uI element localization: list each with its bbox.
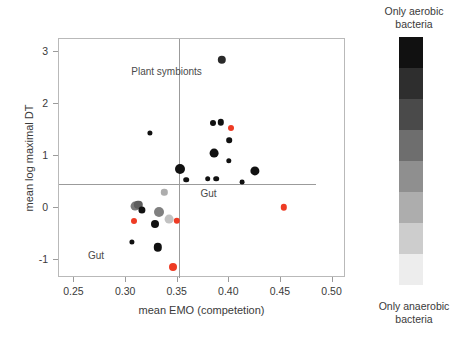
x-axis-tick-label: 0.45 — [270, 285, 290, 297]
x-axis-tick — [228, 277, 229, 282]
y-axis-tick-label: 3 — [24, 45, 48, 57]
x-axis-tick-label: 0.40 — [218, 285, 238, 297]
scatter-point — [217, 119, 223, 125]
x-axis-tick-label: 0.30 — [115, 285, 135, 297]
y-axis-tick — [53, 155, 58, 156]
reference-line-horizontal — [59, 184, 316, 185]
scatter-point — [161, 189, 167, 195]
colorbar-band — [399, 68, 423, 99]
scatter-point — [227, 138, 233, 144]
x-axis-tick-label: 0.50 — [321, 285, 341, 297]
scatter-point — [153, 243, 161, 251]
scatter-point — [175, 164, 185, 174]
colorbar-band — [399, 254, 423, 285]
x-axis-tick — [332, 277, 333, 282]
plot-annotation: Gut — [200, 188, 216, 199]
plot-area: Plant symbiontsGutGut — [58, 38, 345, 277]
scatter-point — [154, 207, 164, 217]
scatter-point — [210, 149, 219, 158]
x-axis-tick — [125, 277, 126, 282]
plot-annotation: Plant symbionts — [131, 66, 202, 77]
x-axis-tick-label: 0.25 — [63, 285, 83, 297]
x-axis-label: mean EMO (competetion) — [58, 304, 345, 316]
y-axis-tick — [53, 207, 58, 208]
scatter-point — [147, 131, 152, 136]
scatter-point — [169, 263, 177, 271]
scatter-point — [165, 214, 174, 223]
scatter-point — [217, 56, 225, 64]
y-axis-tick-label: -1 — [24, 253, 48, 265]
scatter-point — [183, 177, 189, 183]
scatter-point — [239, 179, 244, 184]
scatter-point — [151, 220, 159, 228]
scatter-point — [138, 206, 145, 213]
y-axis-tick — [53, 51, 58, 52]
scatter-point — [251, 167, 260, 176]
y-axis-tick — [53, 103, 58, 104]
x-axis-tick — [177, 277, 178, 282]
scatter-point — [131, 218, 137, 224]
colorbar-band — [399, 223, 423, 254]
colorbar-band — [399, 192, 423, 223]
x-axis-tick — [280, 277, 281, 282]
x-axis-tick — [73, 277, 74, 282]
colorbar-band — [399, 130, 423, 161]
plot-annotation: Gut — [88, 250, 104, 261]
scatter-point — [205, 176, 211, 182]
colorbar-gradient — [399, 37, 423, 285]
scatter-point — [213, 176, 219, 182]
scatter-point — [226, 158, 231, 163]
colorbar-legend: Only aerobic bacteria Only anaerobic bac… — [371, 0, 457, 337]
chart-figure: Plant symbiontsGutGut 0.250.300.350.400.… — [0, 0, 457, 337]
y-axis-label: mean log maximal DT — [23, 68, 35, 248]
x-axis-tick-label: 0.35 — [167, 285, 187, 297]
scatter-point — [210, 120, 216, 126]
scatter-point — [281, 204, 287, 210]
colorbar-band — [399, 37, 423, 68]
legend-top-label: Only aerobic bacteria — [371, 5, 457, 31]
colorbar-band — [399, 161, 423, 192]
scatter-point — [228, 125, 234, 131]
y-axis-tick — [53, 259, 58, 260]
scatter-point — [130, 239, 135, 244]
legend-bottom-label: Only anaerobic bacteria — [371, 300, 457, 326]
colorbar-band — [399, 99, 423, 130]
